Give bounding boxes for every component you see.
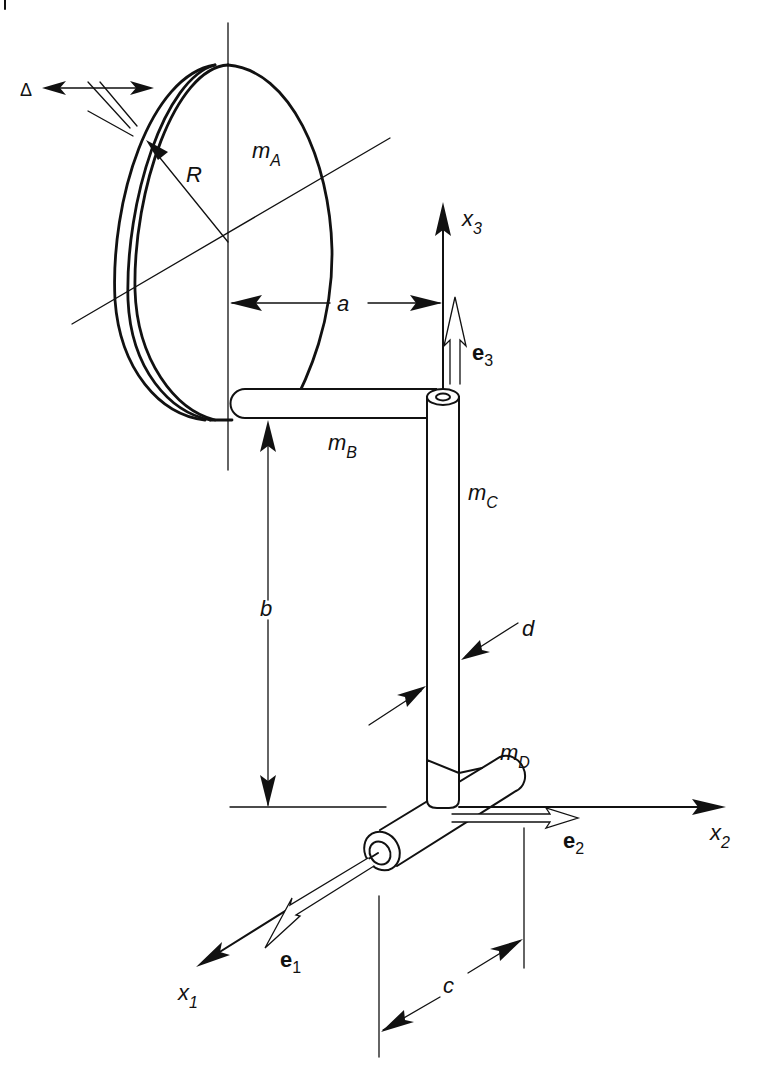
e1-label: e1 xyxy=(280,947,301,976)
dim-a-label: a xyxy=(337,291,349,316)
rod-c xyxy=(427,389,459,808)
dynamics-diagram: R mA Δ a x3 e3 mB mC d b xyxy=(0,0,772,1080)
rod-b-body xyxy=(230,389,436,418)
rod-c-bore xyxy=(436,394,450,401)
x3-axis-label: x3 xyxy=(461,206,482,237)
e3-label: e3 xyxy=(472,340,493,369)
delta-label: Δ xyxy=(20,80,32,100)
dim-b-label: b xyxy=(260,596,272,621)
x1-axis-arrowhead xyxy=(196,942,230,967)
mass-b-label: mB xyxy=(328,430,357,461)
dim-c-label: c xyxy=(443,973,454,998)
e1-vector-arrow xyxy=(265,858,374,948)
rod-c-body xyxy=(427,397,459,808)
disk-a xyxy=(115,65,332,420)
mass-c-label: mC xyxy=(468,480,498,511)
e3-vector-arrow xyxy=(444,297,466,384)
mass-a-label: mA xyxy=(252,138,281,169)
delta-extension-3 xyxy=(88,82,130,128)
radius-label: R xyxy=(186,162,202,187)
disk-face-right xyxy=(228,65,332,417)
e2-label: e2 xyxy=(563,828,584,857)
dim-c-arrowhead-right xyxy=(490,939,523,961)
rod-b xyxy=(230,389,436,418)
x2-axis-label: x2 xyxy=(709,820,730,851)
dim-c-arrowhead-left xyxy=(381,1010,414,1032)
x1-axis-label: x1 xyxy=(177,980,198,1011)
disk-face-left xyxy=(135,65,228,420)
dim-d-label: d xyxy=(522,616,535,641)
